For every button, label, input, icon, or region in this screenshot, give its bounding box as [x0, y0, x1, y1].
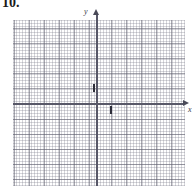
problem-number-label: 10.	[2, 0, 20, 10]
y-axis-arrow-icon	[93, 9, 99, 15]
y-axis-unit-tick	[93, 84, 95, 92]
y-axis-label: y	[84, 8, 88, 16]
x-axis-unit-tick	[110, 106, 112, 114]
figure-root: 10. y x	[0, 0, 196, 196]
y-axis-line	[96, 14, 98, 186]
x-axis-line	[13, 103, 185, 105]
coordinate-grid-plate: y x	[13, 20, 185, 186]
x-axis-label: x	[188, 106, 192, 114]
